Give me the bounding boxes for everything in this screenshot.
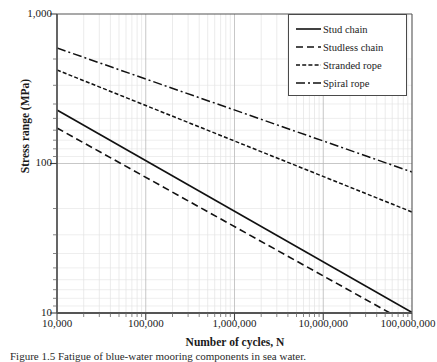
x-axis-title: Number of cycles, N	[57, 336, 413, 348]
x-tick-label-100000: 100,000	[128, 317, 164, 329]
y-tick-label-1000: 1,000	[27, 7, 56, 19]
series-line-studless-chain	[57, 128, 390, 313]
x-tick-label-10000000: 10,000,000	[299, 317, 349, 329]
legend-swatch-fine-dashed-line-icon	[295, 59, 322, 71]
figure-caption: Figure 1.5 Fatigue of blue-water mooring…	[10, 350, 430, 362]
legend-label-spiral-rope: Spiral rope	[322, 78, 369, 89]
legend-label-stranded-rope: Stranded rope	[322, 60, 382, 71]
legend-item-stud-chain: Stud chain	[295, 20, 406, 38]
legend-label-stud-chain: Stud chain	[322, 24, 368, 35]
legend-swatch-dash-dot-line-icon	[295, 77, 322, 89]
x-tick-label-10000: 10,000	[42, 317, 72, 329]
x-tick-label-1000000: 1,000,000	[213, 317, 257, 329]
y-tick-label-100: 100	[36, 156, 57, 168]
legend-item-spiral-rope: Spiral rope	[295, 74, 406, 92]
chart-legend: Stud chain Studless chain Stranded rope …	[288, 14, 407, 96]
legend-swatch-dashed-line-icon	[295, 41, 322, 53]
legend-swatch-solid-line-icon	[295, 23, 322, 35]
x-tick-label-100000000: 100,000,000	[381, 317, 436, 329]
y-axis-title: Stress range (MPa)	[19, 46, 31, 206]
legend-item-stranded-rope: Stranded rope	[295, 56, 406, 74]
legend-item-studless-chain: Studless chain	[295, 38, 406, 56]
legend-label-studless-chain: Studless chain	[322, 42, 383, 53]
